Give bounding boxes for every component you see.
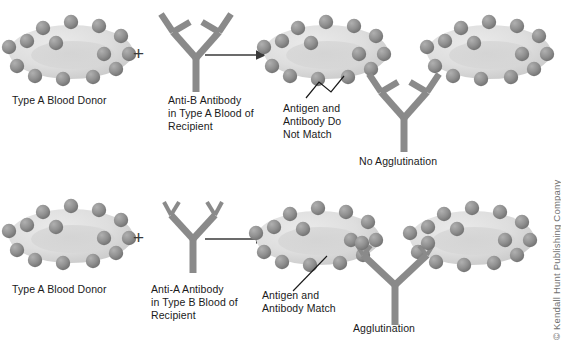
donor-blood-cell-top [2,15,136,86]
callout-label-bottom: Antigen and Antibody Match [262,289,336,315]
donor-label-bottom: Type A Blood Donor [12,283,107,296]
agglutination-diagram: Type A Blood Donor + Anti-B Antibody in … [0,0,561,347]
row-no-agglutination-graphics [2,14,554,152]
result-label-bottom: Agglutination [353,322,415,335]
callout-label-top: Antigen and Antibody Do Not Match [283,102,341,141]
antibody-label-bottom: Anti-A Antibody in Type B Blood of Recip… [151,283,238,322]
anti-a-antibody-bound [355,236,435,325]
plus-sign-top: + [133,44,144,63]
product-blood-cell-top-right [420,15,554,86]
publisher-credit: © Kendall Hunt Publishing Company [551,180,561,340]
plus-sign-bottom: + [133,228,144,247]
product-blood-cell-top-left [257,15,391,86]
bound-antigen-right [421,236,435,250]
mismatch-leader-line [306,76,344,98]
match-leader-line [293,256,327,291]
product-blood-cell-bottom-right [403,201,537,272]
product-blood-cell-bottom-left [249,201,383,272]
anti-a-antibody-reactant [164,202,222,273]
anti-b-antibody-unbound [369,74,439,152]
bound-antigen-left [355,236,369,250]
donor-blood-cell-bottom [2,199,136,270]
antibody-label-top: Anti-B Antibody in Type A Blood of Recip… [168,94,254,133]
donor-label-top: Type A Blood Donor [12,94,107,107]
anti-b-antibody-reactant [161,14,231,92]
result-label-top: No Agglutination [359,155,437,168]
